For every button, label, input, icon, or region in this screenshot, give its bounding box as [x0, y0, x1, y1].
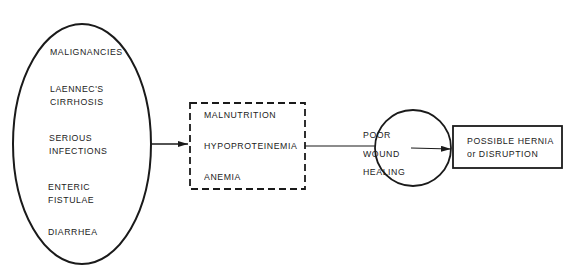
outcome-text: POSSIBLE HERNIA: [467, 134, 554, 147]
cause-laennecs-cirrhosis: LAENNEC'S CIRRHOSIS: [50, 82, 104, 108]
cause-text: CIRRHOSIS: [50, 95, 104, 108]
cause-serious-infections: SERIOUS INFECTIONS: [49, 131, 107, 157]
outcome-text: or DISRUPTION: [467, 147, 554, 160]
effect-poor-wound-healing: POOR WOUND HEALING: [363, 126, 405, 182]
cause-text: FISTULAE: [48, 193, 94, 206]
effect-text: HEALING: [363, 163, 405, 182]
cause-text: SERIOUS: [49, 131, 107, 144]
arrow-effect-to-outcome: [411, 148, 451, 149]
cause-text: DIARRHEA: [48, 226, 98, 237]
cause-enteric-fistulae: ENTERIC FISTULAE: [48, 180, 94, 206]
effect-text: WOUND: [363, 145, 405, 164]
condition-text: ANEMIA: [204, 171, 241, 182]
cause-malignancies: MALIGNANCIES: [50, 45, 123, 58]
effect-text: POOR: [363, 126, 405, 145]
condition-anemia: ANEMIA: [204, 170, 241, 183]
cause-text: LAENNEC'S: [50, 82, 104, 95]
cause-text: ENTERIC: [48, 180, 94, 193]
condition-text: HYPOPROTEINEMIA: [204, 140, 297, 151]
cause-text: INFECTIONS: [49, 144, 107, 157]
condition-text: MALNUTRITION: [204, 109, 276, 120]
outcome-hernia-disruption: POSSIBLE HERNIA or DISRUPTION: [467, 134, 554, 160]
cause-diarrhea: DIARRHEA: [48, 225, 98, 238]
condition-hypoproteinemia: HYPOPROTEINEMIA: [204, 139, 297, 152]
condition-malnutrition: MALNUTRITION: [204, 108, 276, 121]
cause-text: MALIGNANCIES: [50, 46, 123, 57]
